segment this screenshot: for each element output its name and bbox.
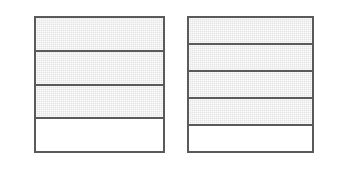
- left-fraction-model-band-1-shaded: [36, 18, 163, 50]
- right-fraction-model-band-3-shaded: [189, 70, 312, 97]
- right-fraction-model-band-4-shaded: [189, 97, 312, 124]
- left-fraction-model-band-3-shaded: [36, 84, 163, 118]
- fraction-models-figure: [0, 0, 357, 170]
- left-fraction-model-band-4-unshaded: [36, 117, 163, 151]
- right-fraction-model-band-2-shaded: [189, 43, 312, 70]
- right-fraction-model-band-5-unshaded: [189, 124, 312, 151]
- left-fraction-model-band-2-shaded: [36, 50, 163, 84]
- right-fraction-model-band-1-shaded: [189, 18, 312, 43]
- right-fraction-model: [187, 16, 314, 153]
- left-fraction-model: [34, 16, 165, 153]
